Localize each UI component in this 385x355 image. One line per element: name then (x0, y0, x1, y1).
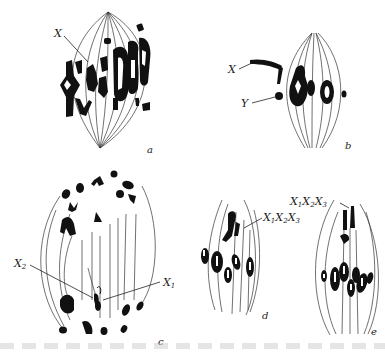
panel-d-chromosomes (201, 211, 254, 283)
label-b-y: Y (241, 98, 248, 109)
panel-c-x1-pointer (103, 282, 160, 300)
label-e-x1x2x3: X1X2X3 (290, 196, 327, 209)
label-c-x1: X1 (163, 277, 175, 290)
panel-b-chromosomes (250, 59, 347, 106)
label-a-x: X (54, 28, 62, 39)
panel-label-d: d (262, 310, 268, 321)
panel-label-e: e (371, 326, 377, 337)
panel-label-b: b (345, 140, 351, 151)
panel-b-x-pointer (239, 63, 252, 69)
panel-c-chromosomes (59, 171, 145, 336)
panel-e-x-pointer (340, 203, 349, 208)
label-c-x2: X2 (14, 258, 26, 271)
panel-e-chromosomes (321, 206, 374, 297)
panel-b-y-pointer (252, 97, 275, 103)
label-d-x1x2x3: X1X2X3 (263, 212, 300, 225)
cut-off-caption-line (0, 343, 385, 349)
panel-label-a: a (147, 144, 153, 155)
figure-canvas (0, 0, 385, 355)
panel-a-x-pointer (64, 36, 88, 62)
label-b-x: X (228, 64, 236, 75)
